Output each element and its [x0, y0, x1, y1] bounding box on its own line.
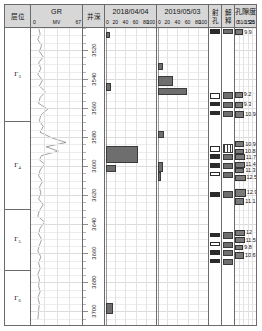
depth-label: 3700 [91, 305, 97, 318]
porosity-bar [235, 198, 244, 205]
gridline-vertical [136, 28, 137, 325]
depth-tick [83, 202, 86, 203]
gridline-horizontal [105, 79, 156, 80]
depth-tick [83, 72, 86, 73]
gridline-horizontal [157, 202, 208, 203]
interpretation-interval [223, 111, 233, 117]
track-interpretation [222, 28, 235, 325]
scale-tick: 100 [147, 17, 155, 27]
log-bar [106, 146, 138, 163]
gridline-horizontal [235, 50, 256, 51]
depth-tick [83, 173, 86, 174]
depth-label: 3640 [91, 218, 97, 231]
gridline-horizontal [105, 181, 156, 182]
interpretation-interval [223, 172, 233, 178]
header-log-2018-label: 2018/04/04 [105, 6, 156, 17]
porosity-value-label: 10.6 [245, 253, 256, 258]
scale-tick: 20 [112, 17, 118, 27]
header-perforation-label-2: 孔 [212, 17, 219, 24]
gridline-horizontal [105, 224, 156, 225]
gridline-horizontal [105, 246, 156, 247]
gridline-horizontal [105, 50, 156, 51]
header-gr-scale: 0 MV 67 [31, 17, 82, 27]
gridline-horizontal [235, 64, 256, 65]
porosity-value-label: 12 [246, 230, 252, 235]
perforation-interval [210, 233, 220, 237]
gridline-horizontal [105, 57, 156, 58]
gridline-vertical [69, 28, 70, 325]
porosity-value-label: 11.7 [246, 155, 256, 160]
depth-tick [83, 239, 86, 240]
header-depth-label: 井深 [87, 13, 101, 20]
porosity-value-label: 11.3 [245, 168, 255, 173]
gridline-horizontal [235, 137, 256, 138]
porosity-bar [235, 168, 244, 174]
gridline-horizontal [157, 188, 208, 189]
porosity-value-label: 9.2 [244, 92, 252, 97]
depth-tick [83, 268, 86, 269]
gridline-horizontal [157, 319, 208, 320]
log-bar [106, 165, 116, 172]
perforation-interval [210, 111, 220, 115]
gridline-horizontal [105, 93, 156, 94]
depth-tick [83, 64, 86, 65]
depth-label: 3580 [91, 130, 97, 143]
porosity-value-label: 9.8 [244, 245, 252, 250]
gridline-horizontal [105, 268, 156, 269]
porosity-bar [235, 189, 246, 196]
perforation-interval [210, 163, 220, 167]
gridline-horizontal [105, 282, 156, 283]
gridline-horizontal [157, 217, 208, 218]
gridline-horizontal [235, 86, 256, 87]
perforation-interval [210, 29, 220, 33]
depth-tick [83, 253, 88, 254]
gridline-horizontal [157, 297, 208, 298]
gridline-horizontal [157, 28, 208, 29]
gridline-horizontal [157, 152, 208, 153]
gridline-horizontal [235, 319, 256, 320]
gridline-horizontal [105, 115, 156, 116]
gridline-horizontal [157, 304, 208, 305]
header-log-2018: 2018/04/04 020406080100 [105, 5, 157, 28]
depth-tick [83, 101, 86, 102]
depth-tick [83, 35, 86, 36]
gr-unit: MV [53, 17, 61, 27]
porosity-bar [235, 102, 243, 108]
baseline [106, 28, 107, 325]
gridline-vertical [188, 28, 189, 325]
stratum-label: Γ5 [14, 235, 20, 244]
perforation-interval [210, 146, 220, 152]
gridline-horizontal [235, 57, 256, 58]
depth-tick [83, 311, 88, 312]
interpretation-interval [223, 29, 233, 33]
depth-label: 3680 [91, 276, 97, 289]
scale-tick: 40 [123, 17, 129, 27]
gridline-horizontal [157, 261, 208, 262]
gridline-horizontal [105, 239, 156, 240]
gridline-horizontal [157, 43, 208, 44]
interpretation-interval [223, 259, 233, 265]
interpretation-interval [223, 191, 233, 198]
gridline-horizontal [105, 122, 156, 123]
header-porosity-label: 孔隙度 [235, 6, 256, 17]
gridline-horizontal [157, 253, 208, 254]
gridline-horizontal [157, 122, 208, 123]
gridline-horizontal [105, 173, 156, 174]
track-log-2018 [105, 28, 157, 325]
log-bar [158, 76, 173, 86]
depth-tick [83, 210, 86, 211]
gridline-horizontal [157, 311, 208, 312]
perforation-interval [210, 154, 220, 158]
depth-tick [83, 275, 86, 276]
porosity-bar [235, 141, 244, 147]
gridline-vertical [115, 28, 116, 325]
stratum-label: Γ3 [14, 70, 20, 79]
scale-tick: 0 [158, 17, 161, 27]
porosity-bar [235, 154, 245, 160]
gridline-horizontal [235, 210, 256, 211]
gridline-horizontal [157, 195, 208, 196]
scale-tick: 20 [164, 17, 170, 27]
stratum-label: Γ6 [14, 294, 20, 303]
gridline-horizontal [235, 261, 256, 262]
gridline-horizontal [157, 232, 208, 233]
